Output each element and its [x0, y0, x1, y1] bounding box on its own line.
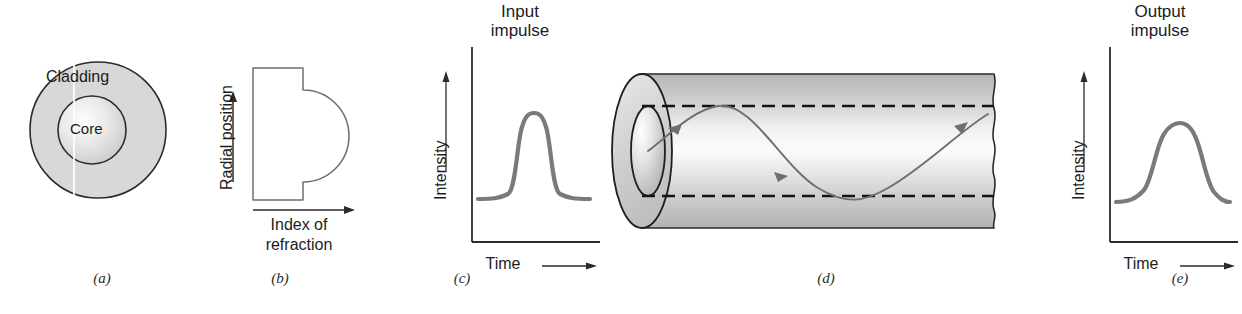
panel-e-output-impulse: Intensity Time [1062, 42, 1242, 247]
panel-e-y-axis-label: Intensity [1070, 140, 1088, 200]
caption-d: (d) [796, 270, 856, 287]
panel-c-title-line2: impulse [440, 21, 600, 40]
panel-c-title-line1: Input [440, 2, 600, 21]
panel-e-title-line1: Output [1080, 2, 1240, 21]
panel-c-input-impulse: Intensity Time [424, 42, 604, 247]
panel-b-index-profile: Radial position Index of refraction [196, 50, 361, 220]
panel-b-x-axis-label-line2: refraction [234, 236, 364, 254]
caption-c: (c) [432, 270, 492, 287]
cladding-label: Cladding [46, 68, 109, 86]
caption-a: (a) [72, 270, 132, 287]
output-impulse-curve [1116, 123, 1230, 202]
index-of-refraction-axis [253, 206, 355, 214]
panel-b-y-axis-label: Radial position [218, 85, 236, 190]
caption-e: (e) [1150, 270, 1210, 287]
panel-e-time-arrow [1180, 263, 1235, 270]
input-impulse-curve [478, 113, 590, 199]
panel-e-title-line2: impulse [1080, 21, 1240, 40]
panel-d-fiber-cylinder [596, 56, 1036, 246]
panel-c-y-axis-label: Intensity [432, 140, 450, 200]
panel-c-time-arrow [542, 263, 597, 270]
fiber-body [642, 74, 995, 228]
caption-b: (b) [250, 270, 310, 287]
panel-a-cross-section: Cladding Core [18, 50, 188, 220]
panel-b-x-axis-label-line1: Index of [234, 216, 364, 234]
index-profile-outline [253, 68, 349, 200]
core-label: Core [70, 120, 103, 137]
